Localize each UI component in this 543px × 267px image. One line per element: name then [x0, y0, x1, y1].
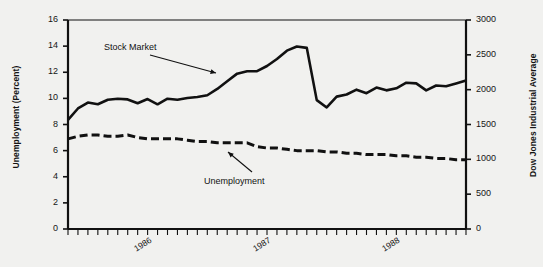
y-axis-left-tick-label: 10 — [28, 92, 58, 102]
y-axis-left-tick-label: 4 — [28, 171, 58, 181]
y-axis-left-tick-label: 2 — [28, 197, 58, 207]
tick-marks — [63, 20, 471, 235]
y-axis-left-tick-label: 12 — [28, 66, 58, 76]
y-axis-right-tick-label: 2500 — [476, 49, 512, 59]
y-axis-right-tick-label: 1500 — [476, 119, 512, 129]
y-axis-right-tick-label: 1000 — [476, 153, 512, 163]
y-axis-left-tick-label: 0 — [28, 223, 58, 233]
series-line-stock-market — [68, 46, 466, 120]
series-line-unemployment — [68, 135, 466, 160]
data-series — [68, 46, 466, 159]
y-axis-left-tick-label: 16 — [28, 14, 58, 24]
stock-market-arrow — [150, 55, 216, 73]
y-axis-right-tick-label: 3000 — [476, 14, 512, 24]
y-axis-left-title: Unemployment (Percent) — [11, 57, 21, 177]
y-axis-left-tick-label: 8 — [28, 119, 58, 129]
y-axis-right-tick-label: 0 — [476, 223, 512, 233]
y-axis-right-tick-label: 500 — [476, 188, 512, 198]
y-axis-right-tick-label: 2000 — [476, 84, 512, 94]
y-axis-left-tick-label: 14 — [28, 40, 58, 50]
y-axis-left-tick-label: 6 — [28, 145, 58, 155]
y-axis-right-title: Dow Jones Industrial Average — [528, 57, 538, 177]
stock-market-annotation: Stock Market — [104, 42, 157, 52]
plot-area — [0, 0, 543, 267]
unemployment-annotation: Unemployment — [204, 176, 265, 186]
chart-figure: Unemployment (Percent) Dow Jones Industr… — [0, 0, 543, 267]
